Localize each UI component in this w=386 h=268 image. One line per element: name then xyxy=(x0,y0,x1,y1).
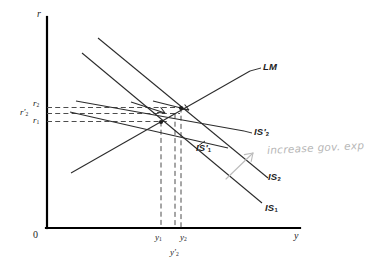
curve-label-is2: IS2 xyxy=(268,172,281,183)
tick-label-y1-sub: 1 xyxy=(159,236,162,242)
curve-label-is2-sub: 2 xyxy=(277,176,280,182)
curve-label-is2-base: IS xyxy=(268,171,277,182)
tick-label-r2: r2 xyxy=(33,99,39,109)
curve-label-is1-prime-sub: 1 xyxy=(208,147,211,153)
tick-label-r1: r1 xyxy=(33,116,39,126)
curve-label-is1-prime: IS'1 xyxy=(196,143,211,154)
curve-label-is1-prime-base: IS' xyxy=(196,142,208,153)
axes-group xyxy=(46,17,300,228)
lm-leader-line xyxy=(250,68,261,71)
y-axis-label: r xyxy=(37,9,41,19)
tick-label-r2-sub: 2 xyxy=(37,102,40,108)
curve-label-is1-base: IS xyxy=(265,202,274,213)
equilibrium-point-e1 xyxy=(159,120,163,124)
curve-label-is2-prime-base: IS' xyxy=(254,126,266,137)
tick-label-y2-prime: y'2 xyxy=(170,248,179,258)
tick-label-y2-prime-sub: 2 xyxy=(176,251,179,257)
tick-label-r2-prime: r'2 xyxy=(20,108,28,118)
equilibrium-markers xyxy=(159,106,183,124)
is-curves-steep xyxy=(82,38,268,203)
vertical-reference-lines xyxy=(161,108,181,229)
tick-label-y2-sub: 2 xyxy=(184,236,187,242)
origin-label: 0 xyxy=(33,230,38,240)
is-lm-diagram: r y 0 r2 r'2 r1 y1 y2 y'2 LM IS'2 IS'1 I… xyxy=(0,0,386,268)
tick-label-y1: y1 xyxy=(155,233,162,243)
diagram-canvas xyxy=(0,0,386,268)
curve-label-lm: LM xyxy=(263,62,277,72)
curve-label-is2-prime-sub: 2 xyxy=(266,131,269,137)
is1-curve-line xyxy=(82,53,262,203)
gov-exp-arrow-shaft xyxy=(226,153,253,179)
x-axis-label: y xyxy=(294,231,298,241)
tick-label-r1-sub: 1 xyxy=(37,119,40,125)
tick-label-y2: y2 xyxy=(180,233,187,243)
increase-gov-exp-arrow xyxy=(226,153,253,179)
curve-label-is1-sub: 1 xyxy=(274,207,277,213)
equilibrium-point-e2 xyxy=(179,106,183,110)
is2-prime-leader-line xyxy=(244,131,252,133)
tick-label-r2-prime-sub: 2 xyxy=(25,111,28,117)
is2-prime-curve-line xyxy=(76,101,244,131)
curve-label-is1: IS1 xyxy=(265,203,278,214)
shift-arrow-upper-shaft xyxy=(153,101,189,110)
leader-lines-group xyxy=(198,68,261,146)
curve-label-is2-prime: IS'2 xyxy=(254,127,269,138)
